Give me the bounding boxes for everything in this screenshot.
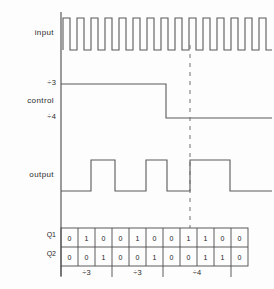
table-cell: 0 [238,254,242,261]
control-waveform [61,84,272,118]
table-cell: 0 [119,235,123,242]
table-cell: 0 [153,235,157,242]
timing-diagram: 0 1 0 0 1 0 0 1 1 0 0 0 0 1 0 0 1 0 0 1 … [0,0,274,289]
table-cell: 0 [85,254,89,261]
table-cell: 1 [153,254,157,261]
table-cell: 0 [68,254,72,261]
table-cell: 0 [187,254,191,261]
input-waveform [63,18,272,50]
diagram-canvas: 0 1 0 0 1 0 0 1 1 0 0 0 0 1 0 0 1 0 0 1 … [0,0,274,289]
division-label-2: ÷3 [112,268,163,277]
output-waveform [61,160,272,191]
table-cell: 0 [170,254,174,261]
output-signal-label: output [6,170,54,179]
table-cell: 0 [68,235,72,242]
division-label-3: ÷4 [163,268,231,277]
table-cell: 0 [238,235,242,242]
table-row-label-q2: Q2 [28,250,56,257]
control-signal-label: control [6,96,54,105]
table-cell: 1 [187,235,191,242]
table-cell: 0 [102,235,106,242]
table-cell: 0 [221,235,225,242]
table-row-q2: 0 0 1 0 0 1 0 0 1 1 0 [68,254,242,261]
table-cell: 0 [170,235,174,242]
table-cell: 0 [119,254,123,261]
table-cell: 1 [204,235,208,242]
table-cell: 1 [204,254,208,261]
table-cell: 1 [221,254,225,261]
control-high-level-label: ÷3 [28,78,56,87]
table-row-q1: 0 1 0 0 1 0 0 1 1 0 0 [68,235,242,242]
table-cell: 1 [102,254,106,261]
table-cell: 1 [85,235,89,242]
table-cell: 0 [136,254,140,261]
division-label-1: ÷3 [61,268,112,277]
control-low-level-label: ÷4 [28,112,56,121]
input-signal-label: input [6,28,54,37]
table-row-label-q1: Q1 [28,231,56,238]
table-cell: 1 [136,235,140,242]
